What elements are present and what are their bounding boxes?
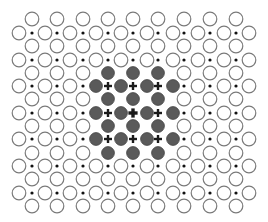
filled-circle-site <box>141 80 154 93</box>
open-circle-site <box>217 26 231 40</box>
open-circle-site <box>203 172 217 186</box>
open-circle-site <box>166 26 180 40</box>
open-circle-site <box>191 186 205 200</box>
open-circle-site <box>203 199 217 213</box>
open-circle-site <box>63 186 77 200</box>
open-circle-site <box>76 12 90 26</box>
plus-icon <box>154 82 162 90</box>
interstitial-dot <box>182 191 185 194</box>
open-circle-site <box>151 39 165 53</box>
open-circle-site <box>229 172 243 186</box>
interstitial-dot <box>30 58 33 61</box>
open-circle-site <box>114 159 128 173</box>
open-circle-site <box>50 172 64 186</box>
open-circle-site <box>140 26 154 40</box>
open-circle-site <box>25 12 39 26</box>
plus-icon <box>154 135 162 143</box>
open-circle-site <box>229 12 243 26</box>
interstitial-dot <box>106 58 109 61</box>
interstitial-dot <box>30 84 33 87</box>
open-circle-site <box>229 199 243 213</box>
open-circle-site <box>217 106 231 120</box>
interstitial-dot <box>234 164 237 167</box>
interstitial-dot <box>55 191 58 194</box>
open-circle-site <box>50 199 64 213</box>
open-circle-site <box>50 66 64 80</box>
open-circle-site <box>166 186 180 200</box>
interstitial-dot <box>208 164 211 167</box>
filled-circle-site <box>115 133 128 146</box>
open-circle-site <box>242 53 256 67</box>
interstitial-dot <box>182 111 185 114</box>
open-circle-site <box>50 146 64 160</box>
plus-icon <box>104 109 112 117</box>
interstitial-dot <box>55 84 58 87</box>
open-circle-site <box>12 79 26 93</box>
open-circle-site <box>12 53 26 67</box>
interstitial-dot <box>30 111 33 114</box>
open-circle-site <box>76 92 90 106</box>
filled-circle-site <box>102 93 115 106</box>
filled-circle-site <box>102 120 115 133</box>
open-circle-site <box>101 12 115 26</box>
filled-circle-site <box>102 147 115 160</box>
interstitial-dot <box>208 31 211 34</box>
open-circle-site <box>38 106 52 120</box>
open-circle-site <box>191 26 205 40</box>
open-circle-site <box>217 159 231 173</box>
open-circle-site <box>242 106 256 120</box>
plus-icon <box>154 109 162 117</box>
filled-circle-site <box>152 120 165 133</box>
open-circle-site <box>76 66 90 80</box>
open-circle-site <box>50 119 64 133</box>
open-circle-site <box>76 146 90 160</box>
open-circle-site <box>177 119 191 133</box>
open-circle-site <box>177 199 191 213</box>
interstitial-dot <box>131 164 134 167</box>
open-circle-site <box>114 26 128 40</box>
open-circle-site <box>25 146 39 160</box>
interstitial-dot <box>106 31 109 34</box>
open-circle-site <box>242 159 256 173</box>
interstitial-dot <box>182 31 185 34</box>
filled-circle-site <box>167 80 180 93</box>
interstitial-dot <box>156 164 159 167</box>
open-circle-site <box>76 119 90 133</box>
interstitial-dot <box>208 84 211 87</box>
open-circle-site <box>76 39 90 53</box>
filled-circle-site <box>152 93 165 106</box>
open-circle-site <box>101 199 115 213</box>
center-plus-icon <box>128 108 137 117</box>
interstitial-dot <box>81 84 84 87</box>
open-circle-site <box>177 39 191 53</box>
open-circle-site <box>63 132 77 146</box>
filled-circle-site <box>127 67 140 80</box>
open-circle-site <box>38 26 52 40</box>
interstitial-dot <box>131 191 134 194</box>
interstitial-dot <box>55 137 58 140</box>
open-circle-site <box>50 92 64 106</box>
open-circle-site <box>63 26 77 40</box>
interstitial-dot <box>156 31 159 34</box>
filled-circle-site <box>90 133 103 146</box>
interstitial-dot <box>208 111 211 114</box>
open-circle-site <box>101 172 115 186</box>
open-circle-site <box>191 53 205 67</box>
open-circle-site <box>12 132 26 146</box>
open-circle-site <box>126 199 140 213</box>
open-circle-site <box>217 186 231 200</box>
lattice-canvas <box>0 0 268 222</box>
open-circle-site <box>177 66 191 80</box>
open-circle-site <box>203 39 217 53</box>
interstitial-dot <box>55 31 58 34</box>
open-circle-site <box>38 159 52 173</box>
open-circle-site <box>89 53 103 67</box>
plus-icon <box>129 135 137 143</box>
open-circle-site <box>203 66 217 80</box>
open-circle-site <box>151 199 165 213</box>
open-circle-site <box>126 39 140 53</box>
open-circle-site <box>114 53 128 67</box>
open-circle-site <box>63 53 77 67</box>
interstitial-dot <box>131 31 134 34</box>
open-circle-site <box>140 186 154 200</box>
